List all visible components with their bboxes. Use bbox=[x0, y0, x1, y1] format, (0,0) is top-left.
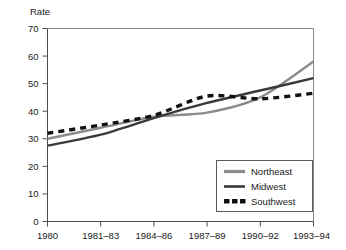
y-tick-label: 30 bbox=[28, 133, 39, 144]
chart-canvas: Rate 010203040506070 19801981–831984–861… bbox=[0, 0, 346, 250]
legend-swatch-southwest bbox=[240, 199, 246, 204]
x-tick-label: 1987–89 bbox=[189, 230, 226, 241]
legend-swatch-southwest bbox=[232, 199, 238, 204]
y-tick-label: 40 bbox=[28, 106, 39, 117]
legend-label-midwest: Midwest bbox=[251, 181, 286, 192]
legend-entries: NortheastMidwestSouthwest bbox=[224, 166, 296, 207]
y-tick-label: 10 bbox=[28, 188, 39, 199]
y-axis-title: Rate bbox=[30, 6, 50, 17]
y-tick-label: 70 bbox=[28, 23, 39, 34]
x-tick-label: 1984–86 bbox=[135, 230, 172, 241]
y-tick-label: 50 bbox=[28, 78, 39, 89]
legend-label-southwest: Southwest bbox=[251, 196, 296, 207]
chart-background bbox=[0, 0, 346, 250]
y-tick-label: 60 bbox=[28, 51, 39, 62]
y-tick-label: 20 bbox=[28, 161, 39, 172]
y-tick-label: 0 bbox=[33, 216, 38, 227]
x-tick-label: 1990–92 bbox=[242, 230, 279, 241]
chart-legend: NortheastMidwestSouthwest bbox=[217, 161, 313, 212]
legend-label-northeast: Northeast bbox=[251, 166, 293, 177]
legend-swatch-southwest bbox=[224, 199, 230, 204]
x-tick-label: 1980 bbox=[37, 230, 58, 241]
x-tick-label: 1993–94 bbox=[293, 230, 330, 241]
x-tick-label: 1981–83 bbox=[82, 230, 119, 241]
line-chart: Rate 010203040506070 19801981–831984–861… bbox=[0, 0, 346, 250]
